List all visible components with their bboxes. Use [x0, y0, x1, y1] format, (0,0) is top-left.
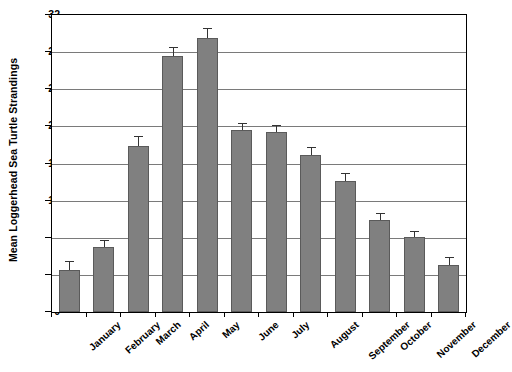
bar [369, 220, 390, 312]
error-bar-cap [445, 257, 454, 258]
error-bar-stem [138, 136, 139, 146]
gridline [52, 89, 466, 90]
error-bar-cap [307, 147, 316, 148]
x-tick-label: May [220, 319, 242, 340]
bar [231, 130, 252, 312]
error-bar-cap [169, 47, 178, 48]
error-bar-cap [203, 28, 212, 29]
error-bar-cap [134, 136, 143, 137]
gridline [52, 126, 466, 127]
error-bar-cap [341, 173, 350, 174]
x-tick-mark [51, 312, 52, 317]
error-bar-cap [238, 123, 247, 124]
bar [93, 247, 114, 312]
x-tick-mark [189, 312, 190, 317]
bar [128, 146, 149, 312]
bar [404, 237, 425, 312]
error-bar-stem [380, 213, 381, 220]
x-tick-mark [86, 312, 87, 317]
gridline [52, 201, 466, 202]
error-bar-cap [65, 261, 74, 262]
bar [335, 181, 356, 312]
x-tick-mark [362, 312, 363, 317]
x-tick-mark [120, 312, 121, 317]
x-tick-mark [465, 312, 466, 317]
x-tick-label: June [256, 319, 281, 343]
x-tick-mark [396, 312, 397, 317]
error-bar-stem [242, 123, 243, 130]
x-tick-mark [431, 312, 432, 317]
x-tick-mark [258, 312, 259, 317]
error-bar-stem [69, 261, 70, 270]
x-tick-mark [293, 312, 294, 317]
x-tick-mark [327, 312, 328, 317]
x-tick-mark [155, 312, 156, 317]
error-bar-cap [100, 240, 109, 241]
bar [59, 270, 80, 312]
error-bar-cap [410, 231, 419, 232]
gridline [52, 164, 466, 165]
error-bar-cap [272, 125, 281, 126]
x-tick-label: July [289, 319, 311, 341]
gridline [52, 52, 466, 53]
x-tick-label: April [187, 319, 211, 342]
error-bar-stem [276, 125, 277, 132]
bar [162, 56, 183, 312]
error-bar-stem [345, 173, 346, 181]
plot-area [51, 14, 467, 313]
error-bar-cap [376, 213, 385, 214]
y-axis-title-text: Mean Loggerhead Sea Turtle Strandings [7, 58, 19, 262]
bar [197, 38, 218, 312]
x-tick-label: January [87, 319, 123, 353]
bar [300, 155, 321, 312]
bar [438, 265, 459, 312]
x-tick-label: August [328, 319, 361, 350]
bar [266, 132, 287, 312]
error-bar-stem [449, 257, 450, 264]
y-axis-title: Mean Loggerhead Sea Turtle Strandings [0, 0, 26, 320]
error-bar-stem [207, 28, 208, 38]
error-bar-stem [311, 147, 312, 155]
x-tick-mark [224, 312, 225, 317]
error-bar-stem [173, 47, 174, 56]
error-bar-stem [104, 240, 105, 247]
